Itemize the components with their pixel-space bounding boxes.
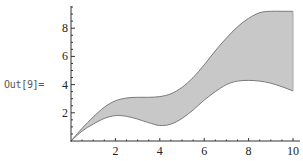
x-tick-label: 2: [112, 144, 118, 158]
y-tick-label: 4: [62, 78, 68, 92]
filled-curve-chart: 2468102468: [0, 0, 303, 161]
filled-region: [71, 11, 293, 141]
x-tick-label: 10: [287, 144, 299, 158]
x-tick-label: 4: [157, 144, 163, 158]
y-tick-label: 2: [62, 106, 68, 120]
x-tick-label: 6: [201, 144, 207, 158]
y-tick-label: 6: [62, 49, 68, 63]
x-tick-label: 8: [246, 144, 252, 158]
plot-area: [71, 11, 293, 141]
y-tick-label: 8: [62, 21, 68, 35]
